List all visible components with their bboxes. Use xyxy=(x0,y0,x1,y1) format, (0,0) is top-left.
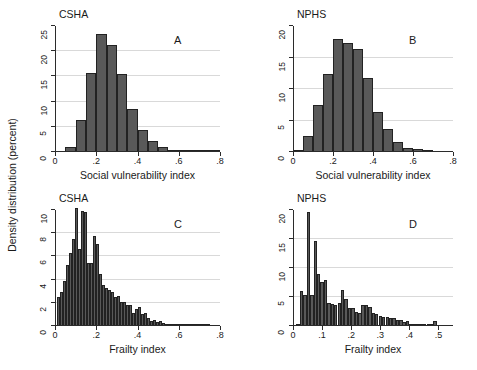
y-tick xyxy=(51,302,55,303)
y-tick xyxy=(51,75,55,76)
panel-a-title: CSHA xyxy=(59,8,88,20)
y-tick-label-text: 8 xyxy=(40,237,49,242)
panel-a-bars xyxy=(55,26,220,152)
y-tick xyxy=(289,120,293,121)
figure-y-axis-title-text: Density distribution (percent) xyxy=(6,118,18,252)
panel-b-bars xyxy=(293,26,453,152)
histogram-bar xyxy=(343,43,353,152)
y-tick-label-text: 0 xyxy=(40,330,49,335)
panel-c-plot: 0246810 0.2.4.6.8 Frailty index xyxy=(55,210,220,326)
x-tick-label: .1 xyxy=(318,331,326,340)
y-tick xyxy=(289,296,293,297)
x-tick-label: 0 xyxy=(52,157,57,166)
panel-c-title: CSHA xyxy=(59,192,88,204)
x-tick-label: .2 xyxy=(329,157,337,166)
y-tick-label-text: 5 xyxy=(278,125,287,130)
figure-y-axis-title: Density distribution (percent) xyxy=(4,0,20,370)
x-tick-label: .4 xyxy=(134,331,142,340)
y-tick-label-text: 15 xyxy=(278,62,287,71)
panel-a-x-axis-title: Social vulnerability index xyxy=(55,169,220,181)
x-tick-label: 0 xyxy=(52,331,57,340)
y-tick-label-text: 0 xyxy=(278,330,287,335)
y-tick xyxy=(51,209,55,210)
x-tick-label: .6 xyxy=(175,157,183,166)
histogram-bar xyxy=(333,39,343,152)
histogram-bar xyxy=(373,112,383,152)
histogram-bar xyxy=(313,105,323,152)
histogram-bar xyxy=(96,34,106,152)
figure-histogram-grid: Density distribution (percent) CSHA A 05… xyxy=(0,0,477,370)
y-tick xyxy=(289,88,293,89)
y-tick xyxy=(51,101,55,102)
panel-c-x-axis-title: Frailty index xyxy=(55,343,220,355)
y-tick xyxy=(51,126,55,127)
x-tick-label: .4 xyxy=(134,157,142,166)
histogram-bar xyxy=(138,130,148,152)
y-tick-label-text: 0 xyxy=(278,156,287,161)
x-tick-label: .5 xyxy=(435,331,443,340)
y-tick-label-text: 20 xyxy=(40,55,49,64)
panel-a-plot: 0510152025 0.2.4.6.8 Social vulnerabilit… xyxy=(55,26,220,152)
y-tick xyxy=(289,57,293,58)
y-tick-label-text: 4 xyxy=(40,284,49,289)
panel-d-plot: 05101520 0.1.2.3.4.5 Frailty index xyxy=(293,210,453,326)
panel-d-title: NPHS xyxy=(297,192,326,204)
y-tick xyxy=(289,238,293,239)
panel-d-y-axis xyxy=(293,210,294,326)
y-tick-label-text: 10 xyxy=(40,214,49,223)
panel-b-x-axis-title: Social vulnerability index xyxy=(293,169,453,181)
y-tick-label-text: 15 xyxy=(278,243,287,252)
x-tick-label: .2 xyxy=(347,331,355,340)
x-tick-label: .8 xyxy=(216,157,224,166)
panel-c-bars xyxy=(55,210,220,326)
y-tick xyxy=(51,50,55,51)
panel-d-bars xyxy=(293,210,453,326)
x-tick-label: .3 xyxy=(377,331,385,340)
y-tick-label-text: 10 xyxy=(278,93,287,102)
histogram-bar xyxy=(383,129,393,152)
y-tick-label-text: 25 xyxy=(40,30,49,39)
x-tick-label: .2 xyxy=(92,331,100,340)
histogram-bar xyxy=(323,74,333,152)
y-tick-label-text: 2 xyxy=(40,307,49,312)
panel-a: CSHA A 0510152025 0.2.4.6.8 Social vulne… xyxy=(55,26,220,152)
y-tick xyxy=(51,255,55,256)
histogram-bar xyxy=(353,49,363,152)
y-tick-label-text: 15 xyxy=(40,80,49,89)
y-tick-label-text: 5 xyxy=(278,301,287,306)
histogram-bar xyxy=(117,74,127,152)
histogram-bar xyxy=(86,73,96,152)
y-tick xyxy=(51,25,55,26)
x-tick-label: 0 xyxy=(290,331,295,340)
y-tick-label-text: 6 xyxy=(40,260,49,265)
panel-b-title: NPHS xyxy=(297,8,326,20)
histogram-bar xyxy=(363,78,373,152)
x-tick-label: .8 xyxy=(449,157,457,166)
panel-b-y-axis xyxy=(293,26,294,152)
y-tick-label-text: 0 xyxy=(40,156,49,161)
y-tick xyxy=(289,209,293,210)
y-tick-label-text: 5 xyxy=(40,131,49,136)
y-tick xyxy=(289,25,293,26)
panel-a-y-axis xyxy=(55,26,56,152)
x-tick-label: .6 xyxy=(175,331,183,340)
x-tick-label: .4 xyxy=(369,157,377,166)
x-tick-label: .6 xyxy=(409,157,417,166)
panel-c: CSHA C 0246810 0.2.4.6.8 Frailty index xyxy=(55,210,220,326)
histogram-bar xyxy=(76,120,86,152)
panel-b: NPHS B 05101520 0.2.4.6.8 Social vulnera… xyxy=(293,26,453,152)
x-tick-label: .2 xyxy=(92,157,100,166)
y-tick xyxy=(289,267,293,268)
x-tick-label: .4 xyxy=(406,331,414,340)
y-tick-label-text: 20 xyxy=(278,214,287,223)
panel-b-plot: 05101520 0.2.4.6.8 Social vulnerability … xyxy=(293,26,453,152)
histogram-bar xyxy=(107,45,117,152)
panel-d: NPHS D 05101520 0.1.2.3.4.5 Frailty inde… xyxy=(293,210,453,326)
y-tick xyxy=(51,232,55,233)
panel-d-x-axis xyxy=(293,325,453,326)
y-tick xyxy=(51,279,55,280)
panel-c-y-axis xyxy=(55,210,56,326)
x-tick-label: 0 xyxy=(290,157,295,166)
histogram-bar xyxy=(127,109,137,152)
y-tick-label-text: 10 xyxy=(278,272,287,281)
